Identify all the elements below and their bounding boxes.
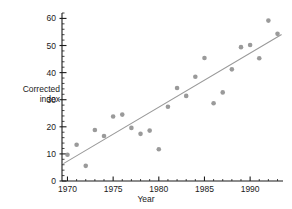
data-point bbox=[202, 56, 207, 61]
data-point bbox=[211, 101, 216, 106]
data-point bbox=[220, 90, 225, 95]
y-axis-title: Correctedindex bbox=[4, 84, 60, 104]
x-axis-tick-label: 1975 bbox=[104, 184, 123, 194]
data-point bbox=[74, 142, 79, 147]
data-point bbox=[248, 43, 253, 48]
data-point bbox=[193, 74, 198, 79]
data-point bbox=[65, 152, 70, 157]
y-axis-tick-label: 10 bbox=[47, 149, 57, 159]
data-point bbox=[266, 18, 271, 23]
scatter-plot-figure: 197019751980198519900102030405060 Correc… bbox=[0, 0, 292, 209]
x-axis-tick-label: 1980 bbox=[149, 184, 168, 194]
plot-canvas: 197019751980198519900102030405060 bbox=[0, 0, 292, 209]
data-point bbox=[230, 67, 235, 72]
y-axis-tick-label: 50 bbox=[47, 41, 57, 51]
y-axis-tick-label: 40 bbox=[47, 68, 57, 78]
data-point bbox=[111, 114, 116, 119]
data-point bbox=[239, 45, 244, 50]
data-point bbox=[184, 94, 189, 99]
data-point bbox=[147, 128, 152, 133]
data-point-group bbox=[65, 18, 280, 168]
data-point bbox=[129, 126, 134, 131]
data-point bbox=[257, 56, 262, 61]
y-axis-tick-label: 60 bbox=[47, 13, 57, 23]
data-point bbox=[275, 32, 280, 37]
data-point bbox=[157, 147, 162, 152]
data-point bbox=[83, 164, 88, 169]
data-point bbox=[120, 112, 125, 117]
x-axis-tick-label: 1990 bbox=[241, 184, 260, 194]
data-point bbox=[166, 104, 171, 109]
data-point bbox=[175, 86, 180, 91]
y-axis-title-line: index bbox=[4, 94, 60, 104]
y-axis-title-line: Corrected bbox=[4, 84, 60, 94]
data-point bbox=[93, 128, 98, 133]
data-point bbox=[138, 132, 143, 137]
y-axis-tick-label: 0 bbox=[51, 176, 56, 186]
y-axis-tick-label: 20 bbox=[47, 122, 57, 132]
trend-line bbox=[64, 35, 281, 164]
x-axis-tick-label: 1985 bbox=[195, 184, 214, 194]
data-point bbox=[102, 134, 107, 139]
x-axis-title: Year bbox=[116, 194, 176, 204]
x-axis-tick-label: 1970 bbox=[58, 184, 77, 194]
